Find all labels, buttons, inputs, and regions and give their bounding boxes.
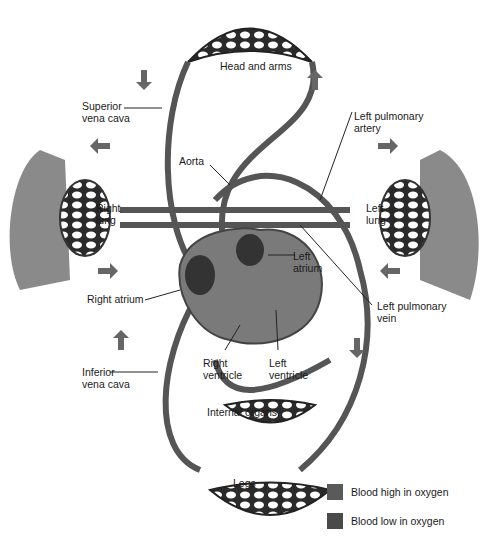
- legend-swatch: [327, 513, 343, 529]
- label-right-atrium: Right atrium: [87, 293, 144, 305]
- arrow-right-icon: [98, 263, 118, 279]
- label-left-ventricle: Leftventricle: [269, 357, 308, 381]
- label-internal-organs: Internal organs: [207, 406, 277, 418]
- arrow-up-icon: [307, 70, 323, 90]
- arrow-left-icon: [380, 263, 400, 279]
- arrow-left-icon: [90, 138, 110, 154]
- legs-capillary: [210, 483, 330, 516]
- arrow-right-icon: [378, 138, 398, 154]
- label-right-ventricle: Rightventricle: [203, 357, 242, 381]
- label-inferior-vena-cava: Inferiorvena cava: [82, 366, 130, 390]
- aorta-arch: [222, 62, 314, 250]
- head-capillary: [188, 29, 312, 63]
- circulation-diagram: [0, 0, 487, 541]
- label-aorta: Aorta: [179, 155, 204, 167]
- label-left-pulmonary-artery: Left pulmonaryartery: [354, 110, 423, 134]
- label-left-atrium: Leftatrium: [293, 250, 322, 274]
- label-head-arms: Head and arms: [220, 60, 292, 72]
- arrow-down-icon: [136, 70, 152, 90]
- label-superior-vena-cava: Superiorvena cava: [82, 100, 130, 124]
- arrow-up-icon: [113, 330, 129, 350]
- label-right-lung: Rightlung: [96, 202, 121, 226]
- label-legs: Legs: [233, 477, 256, 489]
- label-left-lung: Leftlung: [366, 202, 386, 226]
- legend-swatch: [327, 484, 343, 500]
- label-left-pulmonary-vein: Left pulmonaryvein: [377, 300, 446, 324]
- legend-high-oxygen: Blood high in oxygen: [327, 484, 449, 500]
- legend-low-oxygen: Blood low in oxygen: [327, 513, 444, 529]
